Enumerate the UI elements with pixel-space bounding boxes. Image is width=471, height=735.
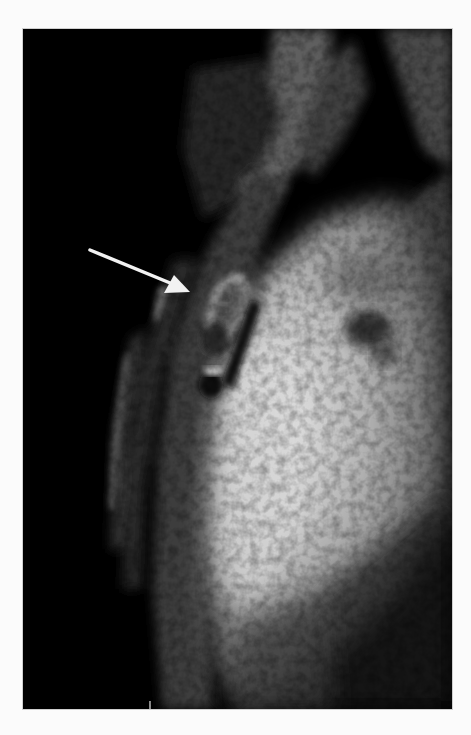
noise-texture bbox=[23, 29, 452, 709]
mri-image bbox=[23, 29, 452, 709]
mri-scan-graphic bbox=[23, 29, 452, 709]
